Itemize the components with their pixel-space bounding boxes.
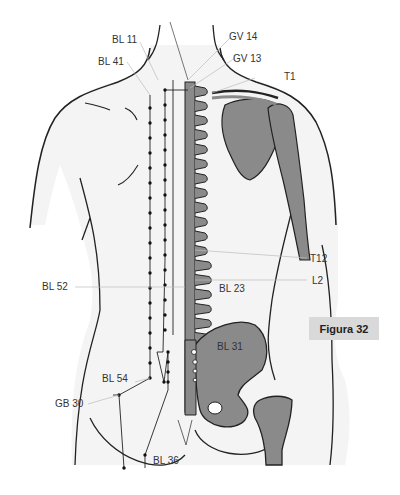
label-bl54: BL 54 [102, 373, 128, 384]
label-bl52: BL 52 [42, 281, 68, 292]
label-bl41: BL 41 [98, 56, 124, 67]
label-t1: T1 [284, 71, 296, 82]
back-anatomy-diagram [0, 0, 400, 495]
label-bl31: BL 31 [217, 341, 243, 352]
label-t12: T12 [310, 253, 327, 264]
label-l2: L2 [312, 275, 323, 286]
label-bl11: BL 11 [112, 34, 137, 45]
label-bl36: BL 36 [153, 455, 179, 466]
figure-caption: Figura 32 [309, 317, 379, 340]
label-gb30: GB 30 [55, 398, 83, 409]
label-gv14: GV 14 [229, 31, 257, 42]
label-bl23: BL 23 [219, 283, 245, 294]
label-gv13: GV 13 [233, 53, 261, 64]
